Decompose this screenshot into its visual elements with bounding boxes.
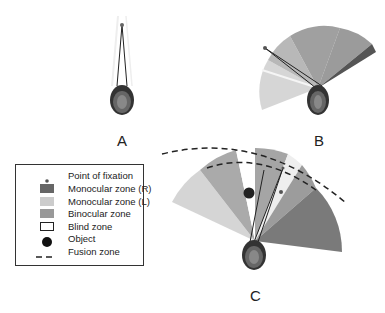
dashed-line-icon [40,247,54,256]
legend: Point of fixation Monocular zone (R) Mon… [15,164,144,266]
panel-label-b: B [314,132,324,149]
legend-item-fixation: Point of fixation [16,170,143,182]
legend-item-object: Object [16,233,143,245]
fixation-dot-icon [40,171,54,180]
head-icon-b [307,85,329,115]
panel-a-fields [52,15,192,86]
object-dot [244,188,255,199]
swatch-outline-icon [40,222,54,231]
legend-item-blind: Blind zone [16,221,143,233]
legend-item-monocular-l: Monocular zone (L) [16,196,143,208]
legend-item-fusion: Fusion zone [16,246,143,258]
head-icon-c [242,240,266,270]
vision-field-diagram [0,0,385,313]
panel-label-a: A [117,132,127,149]
swatch-dark-icon [40,184,54,193]
panel-c-fields [162,148,346,252]
fixation-point-c [279,190,283,194]
legend-item-binocular: Binocular zone [16,208,143,220]
head-icon-a [110,85,134,115]
fixation-point-a [120,23,124,27]
swatch-light-icon [40,197,54,206]
panel-label-c: C [250,287,261,304]
swatch-mid-icon [40,209,54,218]
fixation-point-b [263,46,267,50]
object-circle-icon [40,234,54,243]
legend-item-monocular-r: Monocular zone (R) [16,183,143,195]
